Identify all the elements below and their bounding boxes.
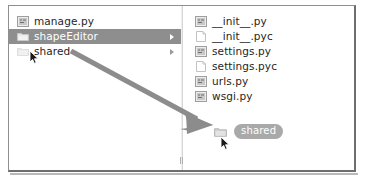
folder-icon — [17, 46, 29, 57]
python-file-icon — [195, 16, 207, 27]
right-file-list: __init__.py __init__.pyc — [195, 14, 354, 104]
drag-ghost-label: shared — [234, 124, 283, 139]
blank-file-icon — [195, 61, 207, 72]
file-browser-window: manage.py shapeEditor — [8, 5, 356, 172]
splitter-grip-line — [180, 157, 181, 164]
list-item-manage-py[interactable]: manage.py — [9, 14, 181, 29]
list-item-shapeeditor[interactable]: shapeEditor — [9, 29, 181, 44]
list-item-label: shapeEditor — [34, 29, 98, 44]
list-item-label: manage.py — [34, 14, 94, 29]
list-item-label: shared — [34, 44, 70, 59]
list-item-settings-pyc[interactable]: settings.pyc — [195, 59, 354, 74]
list-item-wsgi-py[interactable]: wsgi.py — [195, 89, 354, 104]
list-item-init-py[interactable]: __init__.py — [195, 14, 354, 29]
python-file-icon — [17, 16, 29, 27]
list-item-init-pyc[interactable]: __init__.pyc — [195, 29, 354, 44]
chevron-right-icon[interactable] — [170, 49, 174, 55]
list-item-shared[interactable]: shared — [9, 44, 181, 59]
list-item-label: settings.py — [212, 44, 271, 59]
drag-ghost-shared: shared — [214, 124, 283, 139]
list-item-label: __init__.py — [212, 14, 267, 29]
python-file-icon — [195, 76, 207, 87]
list-item-label: __init__.pyc — [212, 29, 273, 44]
left-pane-project-tree[interactable]: manage.py shapeEditor — [9, 6, 181, 170]
chevron-right-icon[interactable] — [170, 34, 174, 40]
window-drop-shadow — [10, 173, 358, 175]
list-item-urls-py[interactable]: urls.py — [195, 74, 354, 89]
list-item-label: wsgi.py — [212, 89, 253, 104]
right-pane-folder-contents[interactable]: __init__.py __init__.pyc — [183, 6, 354, 170]
left-file-list: manage.py shapeEditor — [9, 14, 181, 59]
split-panes: manage.py shapeEditor — [9, 6, 354, 170]
folder-icon — [17, 31, 29, 42]
blank-file-icon — [195, 31, 207, 42]
python-file-icon — [195, 46, 207, 57]
python-file-icon — [195, 91, 207, 102]
list-item-label: settings.pyc — [212, 59, 277, 74]
list-item-label: urls.py — [212, 74, 248, 89]
folder-icon — [214, 126, 226, 137]
list-item-settings-py[interactable]: settings.py — [195, 44, 354, 59]
